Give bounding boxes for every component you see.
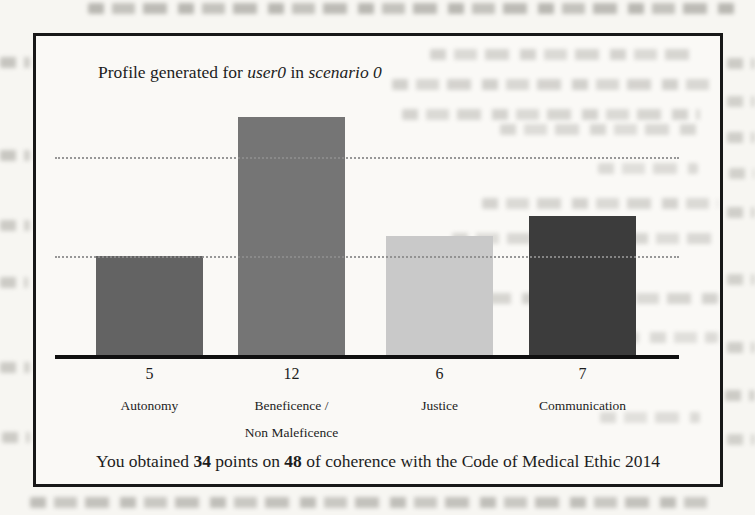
category-label: Beneficence /Non Maleficence (216, 392, 367, 446)
bar-communication (529, 216, 636, 355)
bar-label: 5Autonomy (74, 365, 225, 419)
background-text-smudge (402, 109, 700, 120)
summary-total: 48 (284, 451, 302, 471)
background-text-smudge (392, 79, 714, 90)
x-axis (55, 355, 679, 359)
category-label-line: Non Maleficence (216, 419, 367, 446)
title-scenario: scenario 0 (308, 62, 381, 82)
background-text-smudge (727, 132, 755, 143)
scanned-page: Profile generated for user0 in scenario … (0, 0, 755, 515)
background-text-smudge (727, 274, 755, 285)
value-label: 6 (364, 365, 515, 383)
category-label-line: Beneficence / (216, 392, 367, 419)
background-text-smudge (30, 497, 710, 508)
gridline-5 (55, 256, 679, 258)
summary-middle: points on (211, 451, 284, 471)
summary-prefix: You obtained (96, 451, 193, 471)
background-text-smudge (727, 96, 755, 107)
bar-label: 12Beneficence /Non Maleficence (216, 365, 367, 446)
background-text-smudge (0, 362, 30, 373)
value-label: 12 (216, 365, 367, 383)
background-text-smudge (727, 342, 755, 353)
background-text-smudge (727, 207, 755, 218)
background-text-smudge (725, 390, 755, 401)
category-label: Justice (364, 392, 515, 419)
category-label-line: Autonomy (74, 392, 225, 419)
value-label: 7 (507, 365, 658, 383)
summary-suffix: of coherence with the Code of Medical Et… (302, 451, 660, 471)
background-text-smudge (0, 150, 30, 161)
background-text-smudge (2, 432, 30, 443)
value-label: 5 (74, 365, 225, 383)
background-text-smudge (88, 3, 736, 14)
background-text-smudge (500, 124, 698, 135)
title-user: user0 (247, 62, 286, 82)
category-label-line: Communication (507, 392, 658, 419)
bar-justice (386, 236, 493, 355)
figure-title: Profile generated for user0 in scenario … (98, 61, 382, 83)
category-label: Communication (507, 392, 658, 419)
summary-points: 34 (193, 451, 211, 471)
background-text-smudge (727, 58, 755, 69)
gridline-10 (55, 157, 679, 159)
category-label-line: Justice (364, 392, 515, 419)
category-label: Autonomy (74, 392, 225, 419)
coherence-summary: You obtained 34 points on 48 of coherenc… (36, 451, 720, 472)
background-text-smudge (0, 220, 30, 231)
background-text-smudge (729, 168, 755, 179)
background-text-smudge (727, 434, 755, 445)
bar-label: 6Justice (364, 365, 515, 419)
title-prefix: Profile generated for (98, 62, 247, 82)
background-text-smudge (598, 163, 698, 174)
bar-autonomy (96, 256, 203, 355)
background-text-smudge (0, 57, 30, 68)
background-text-smudge (430, 49, 698, 60)
background-text-smudge (0, 277, 28, 288)
background-text-smudge (482, 198, 718, 209)
bar-beneficence-non-maleficence (238, 117, 345, 355)
bar-label: 7Communication (507, 365, 658, 419)
figure-box: Profile generated for user0 in scenario … (33, 33, 723, 487)
title-connector: in (286, 62, 308, 82)
